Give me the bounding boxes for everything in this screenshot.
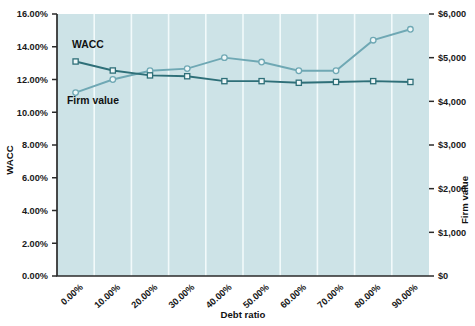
x-axis-title: Debt ratio [221, 309, 266, 320]
y-tick-label: 10.00% [17, 108, 48, 118]
data-point-marker [185, 74, 190, 79]
x-tick-label: 30.00% [167, 282, 197, 310]
data-point-marker [408, 26, 414, 32]
y-tick-label: 2.00% [22, 239, 48, 249]
data-point-marker [333, 68, 339, 74]
data-point-marker [184, 66, 190, 72]
data-point-marker [408, 79, 413, 84]
y-tick-label: 6.00% [22, 173, 48, 183]
y2-tick-label: $6,000 [438, 9, 466, 19]
y-tick-label: 4.00% [22, 206, 48, 216]
x-tick-label: 50.00% [241, 282, 271, 310]
data-point-marker [333, 79, 338, 84]
firm-value-annotation-label: Firm value [67, 95, 119, 106]
y-tick-label: 8.00% [22, 140, 48, 150]
y-tick-label: 0.00% [22, 271, 48, 281]
y2-tick-label: $5,000 [438, 53, 466, 63]
x-axis-labels: 0.00%10.00%20.00%30.00%40.00%50.00%60.00… [59, 282, 420, 310]
y2-axis-tick-group [429, 14, 434, 276]
data-point-marker [296, 68, 302, 74]
data-point-marker [222, 55, 228, 61]
dual-axis-line-chart: 16.00%14.00%12.00%10.00%8.00%6.00%4.00%2… [0, 0, 475, 326]
x-tick-label: 40.00% [204, 282, 234, 310]
x-tick-label: 80.00% [353, 282, 383, 310]
x-tick-label: 60.00% [278, 282, 308, 310]
y-axis-labels: 16.00%14.00%12.00%10.00%8.00%6.00%4.00%2… [17, 9, 48, 281]
y2-axis-labels: $6,000$5,000$4,000$3,000$2,000$1,000$0 [438, 9, 466, 281]
x-tick-label: 10.00% [92, 282, 122, 310]
y-tick-label: 12.00% [17, 75, 48, 85]
data-point-marker [296, 80, 301, 85]
data-point-marker [222, 79, 227, 84]
data-point-marker [259, 79, 264, 84]
y2-tick-label: $0 [438, 271, 448, 281]
data-point-marker [110, 68, 115, 73]
x-tick-label: 70.00% [315, 282, 345, 310]
x-tick-label: 90.00% [390, 282, 420, 310]
chart-container: 16.00%14.00%12.00%10.00%8.00%6.00%4.00%2… [0, 0, 475, 326]
data-point-marker [73, 59, 78, 64]
y-axis-title: WACC [4, 145, 15, 174]
data-point-marker [370, 37, 376, 43]
data-point-marker [110, 77, 116, 83]
data-point-marker [259, 59, 265, 65]
x-tick-label: 20.00% [129, 282, 159, 310]
data-point-marker [371, 79, 376, 84]
y2-tick-label: $1,000 [438, 228, 466, 238]
x-tick-label: 0.00% [59, 282, 85, 307]
y2-tick-label: $4,000 [438, 97, 466, 107]
y2-axis-title: Firm value [459, 176, 470, 224]
y-tick-label: 16.00% [17, 9, 48, 19]
y2-tick-label: $3,000 [438, 140, 466, 150]
data-point-marker [147, 73, 152, 78]
wacc-annotation-label: WACC [72, 39, 104, 50]
y-tick-label: 14.00% [17, 42, 48, 52]
